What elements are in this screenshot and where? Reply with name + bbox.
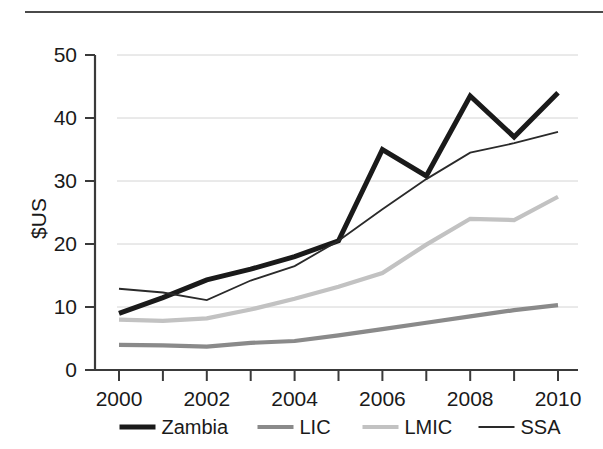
legend-label-lic: LIC — [300, 416, 331, 438]
x-tick-label: 2008 — [447, 387, 494, 410]
gridlines — [117, 55, 578, 307]
y-tick-labels: 01020304050 — [54, 43, 77, 381]
legend-label-lmic: LMIC — [405, 416, 453, 438]
y-axis — [85, 55, 95, 370]
chart-legend: ZambiaLICLMICSSA — [120, 416, 562, 438]
x-tick-label: 2004 — [271, 387, 318, 410]
plot-area: 01020304050 200020022004200620082010 $US… — [0, 0, 603, 449]
x-tick-labels: 200020022004200620082010 — [96, 387, 582, 410]
series-line-ssa — [119, 132, 558, 300]
y-tick-label: 10 — [54, 295, 77, 318]
series-line-lmic — [119, 197, 558, 321]
y-axis-title-label: $US — [27, 198, 50, 239]
y-axis-title: $US — [27, 198, 50, 239]
y-tick-label: 0 — [65, 358, 77, 381]
series-line-lic — [119, 305, 558, 347]
legend-label-zambia: Zambia — [162, 416, 230, 438]
y-tick-label: 50 — [54, 43, 77, 66]
x-axis — [95, 370, 578, 381]
legend-label-ssa: SSA — [521, 416, 562, 438]
line-chart-svg: 01020304050 200020022004200620082010 $US… — [0, 0, 603, 449]
x-tick-label: 2006 — [359, 387, 406, 410]
series-line-zambia — [119, 93, 558, 313]
y-tick-label: 30 — [54, 169, 77, 192]
y-tick-label: 40 — [54, 106, 77, 129]
x-tick-label: 2002 — [183, 387, 230, 410]
figure-container: 01020304050 200020022004200620082010 $US… — [0, 0, 603, 449]
x-tick-label: 2000 — [96, 387, 143, 410]
y-tick-label: 20 — [54, 232, 77, 255]
x-tick-label: 2010 — [535, 387, 582, 410]
data-series — [119, 93, 558, 347]
